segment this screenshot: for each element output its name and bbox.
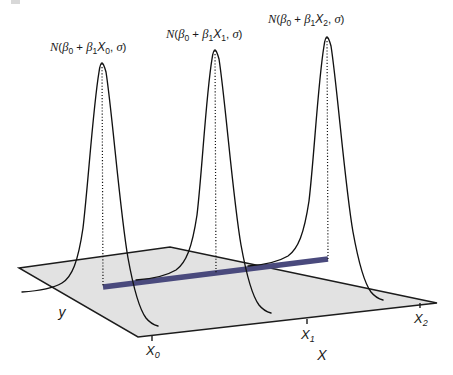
figure-canvas: N(β0 + β1X0, σ) N(β0 + β1X1, σ) N(β0 + β… (0, 0, 453, 375)
drop-line-x0 (102, 64, 103, 286)
x-axis-label: X (316, 347, 327, 363)
y-axis-label: y (58, 304, 67, 320)
x-tick-label-x2: X2 (413, 311, 428, 328)
distribution-label-x2: N(β0 + β1X2, σ) (267, 12, 345, 28)
drop-lines (102, 38, 328, 286)
plane-surface (19, 247, 437, 337)
drop-line-x1 (215, 51, 216, 273)
distribution-label-x1: N(β0 + β1X1, σ) (165, 27, 243, 43)
scan-artifact (11, 0, 20, 4)
regression-distribution-figure: N(β0 + β1X0, σ) N(β0 + β1X1, σ) N(β0 + β… (0, 0, 453, 375)
x-tick-label-x1: X1 (300, 327, 315, 344)
drop-line-x2 (327, 38, 328, 259)
regression-plane (19, 247, 437, 337)
distribution-label-x0: N(β0 + β1X0, σ) (49, 40, 127, 56)
x-tick-label-x0: X0 (145, 343, 160, 360)
